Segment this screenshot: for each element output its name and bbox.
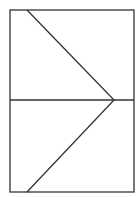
outer-frame <box>10 10 134 192</box>
chevron-lines <box>27 10 114 192</box>
diagram-canvas <box>0 0 140 197</box>
